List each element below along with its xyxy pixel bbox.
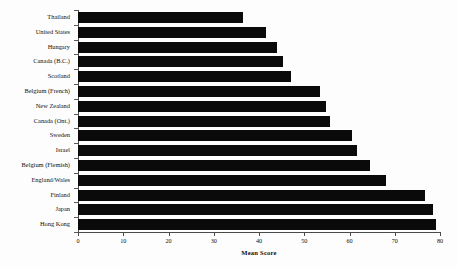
bar <box>78 42 277 53</box>
category-label: Finland <box>0 192 74 198</box>
bar-row <box>78 54 440 69</box>
category-label: Hungary <box>0 44 74 50</box>
bar-row <box>78 173 440 188</box>
y-axis-tick <box>74 25 78 26</box>
y-axis-tick <box>74 188 78 189</box>
x-axis-title: Mean Score <box>78 249 440 256</box>
category-label: Thailand <box>0 14 74 20</box>
x-axis-tick <box>440 232 441 236</box>
y-axis-tick <box>74 10 78 11</box>
category-label: Canada (B.C.) <box>0 58 74 64</box>
bar-row <box>78 99 440 114</box>
bar <box>78 175 386 186</box>
y-axis-tick <box>74 69 78 70</box>
y-axis-tick <box>74 143 78 144</box>
category-label: Canada (Ont.) <box>0 118 74 124</box>
category-label: New Zealand <box>0 103 74 109</box>
bar-row <box>78 84 440 99</box>
bar-row <box>78 25 440 40</box>
category-label: United States <box>0 29 74 35</box>
bar <box>78 204 433 215</box>
bar-row <box>78 158 440 173</box>
x-axis-tick-label: 30 <box>211 238 217 244</box>
bar-row <box>78 202 440 217</box>
y-axis-tick <box>74 40 78 41</box>
category-label: Scotland <box>0 73 74 79</box>
x-axis-tick <box>123 232 124 236</box>
bar-row <box>78 40 440 55</box>
bar <box>78 27 266 38</box>
x-axis-tick-label: 50 <box>301 238 307 244</box>
x-axis-tick-label: 40 <box>256 238 262 244</box>
x-axis-tick-label: 70 <box>392 238 398 244</box>
category-label: Japan <box>0 206 74 212</box>
category-label: Hong Kong <box>0 221 74 227</box>
x-axis-tick-label: 0 <box>76 238 79 244</box>
y-axis-tick <box>74 84 78 85</box>
x-axis-tick-label: 10 <box>120 238 126 244</box>
x-axis-tick <box>395 232 396 236</box>
category-label: Belgium (Flemish) <box>0 162 74 168</box>
y-axis-tick <box>74 202 78 203</box>
x-axis-tick <box>78 232 79 236</box>
x-axis-tick-label: 20 <box>165 238 171 244</box>
y-axis-tick <box>74 99 78 100</box>
bar-row <box>78 114 440 129</box>
bar <box>78 101 326 112</box>
plot-area <box>78 10 440 232</box>
y-axis-tick <box>74 158 78 159</box>
bar-row <box>78 10 440 25</box>
bar-row <box>78 217 440 232</box>
bar <box>78 116 330 127</box>
bar <box>78 56 283 67</box>
x-axis-tick-label: 80 <box>437 238 443 244</box>
bar <box>78 145 357 156</box>
category-axis-labels: ThailandUnited StatesHungaryCanada (B.C.… <box>0 10 74 232</box>
category-label: Israel <box>0 147 74 153</box>
bar-row <box>78 69 440 84</box>
x-axis-tick <box>259 232 260 236</box>
x-axis-tick <box>214 232 215 236</box>
bar <box>78 219 436 230</box>
bar <box>78 190 425 201</box>
bar <box>78 86 320 97</box>
x-axis-tick-label: 60 <box>346 238 352 244</box>
bar <box>78 160 370 171</box>
category-label: Sweden <box>0 132 74 138</box>
y-axis-tick <box>74 54 78 55</box>
bar-chart: ThailandUnited StatesHungaryCanada (B.C.… <box>0 0 458 267</box>
category-label: Belgium (French) <box>0 88 74 94</box>
y-axis-tick <box>74 217 78 218</box>
bar-row <box>78 188 440 203</box>
bar <box>78 130 352 141</box>
x-axis-tick <box>350 232 351 236</box>
y-axis-tick <box>74 128 78 129</box>
y-axis-tick <box>74 173 78 174</box>
y-axis-tick <box>74 114 78 115</box>
bar-row <box>78 143 440 158</box>
x-axis-tick <box>169 232 170 236</box>
x-axis-tick <box>304 232 305 236</box>
bar-row <box>78 128 440 143</box>
bar <box>78 12 243 23</box>
bar <box>78 71 291 82</box>
y-axis-tick <box>74 232 78 233</box>
category-label: England/Wales <box>0 177 74 183</box>
